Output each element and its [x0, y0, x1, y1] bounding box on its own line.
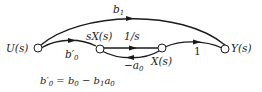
node-x: [158, 44, 166, 52]
signal-flow-graph: U(s) sX(s) X(s) Y(s) b1 b′0 1/s −a0 1 b′…: [0, 0, 262, 92]
gain-b0-prime: b′0: [65, 48, 79, 62]
arrow-icon: [129, 46, 137, 51]
gain-neg-a0: −a0: [124, 59, 144, 73]
arrow-icon: [68, 38, 76, 43]
label-x: X(s): [150, 55, 172, 67]
label-u: U(s): [6, 42, 28, 54]
gain-b1: b1: [113, 3, 124, 17]
gain-inv-s: 1/s: [124, 30, 140, 42]
arrow-icon: [193, 40, 201, 45]
arrow-icon: [126, 16, 134, 21]
edge-inv-s: [103, 46, 158, 51]
node-y: [221, 45, 229, 53]
label-y: Y(s): [231, 42, 252, 54]
label-sx: sX(s): [86, 30, 112, 42]
equation: b′0 = b0 − b1a0: [40, 75, 115, 88]
node-sx: [96, 45, 104, 53]
node-u: [34, 44, 42, 52]
gain-one: 1: [194, 45, 201, 57]
